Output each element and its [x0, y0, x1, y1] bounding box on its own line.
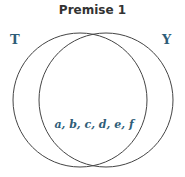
set-t-label: T [10, 32, 20, 47]
intersection-members: a, b, c, d, e, f [54, 118, 134, 131]
set-y-circle [39, 33, 173, 167]
set-t-circle [13, 33, 147, 167]
venn-diagram [0, 0, 185, 177]
set-y-label: Y [162, 32, 171, 47]
